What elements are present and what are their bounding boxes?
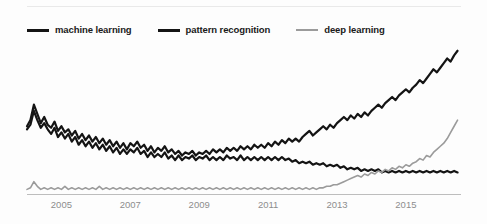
x-tick-label-2011: 2011 [258,199,278,210]
x-tick-label-2013: 2013 [326,199,347,210]
x-tick-label-2015: 2015 [395,199,416,210]
x-tick-label-2005: 2005 [51,199,72,210]
x-axis-line [27,194,461,195]
trend-chart: machine learning pattern recognition dee… [0,0,487,224]
series-line-deep-learning [27,120,458,189]
plot-svg [0,0,487,224]
x-tick-label-2007: 2007 [120,199,141,210]
plot-area [0,0,487,224]
x-tick-label-2009: 2009 [189,199,210,210]
series-line-machine-learning [27,51,458,156]
